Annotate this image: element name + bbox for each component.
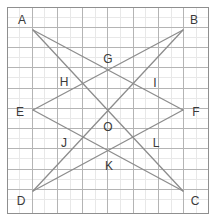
vertex-label-J: J [61,137,67,149]
vertex-label-D: D [17,195,26,207]
vertex-label-B: B [190,14,198,26]
vertex-label-K: K [105,160,113,172]
vertex-label-L: L [153,137,160,149]
geometry-figure: A B G H I E F O J L K D C [0,0,216,221]
vertex-label-H: H [60,76,69,88]
vertex-label-E: E [16,106,24,118]
vertex-label-C: C [191,195,200,207]
vertex-label-A: A [18,14,26,26]
vertex-label-I: I [153,77,156,89]
vertex-label-F: F [192,106,199,118]
vertex-label-G: G [103,53,112,65]
figure-canvas [0,0,216,221]
vertex-label-O: O [103,121,112,133]
